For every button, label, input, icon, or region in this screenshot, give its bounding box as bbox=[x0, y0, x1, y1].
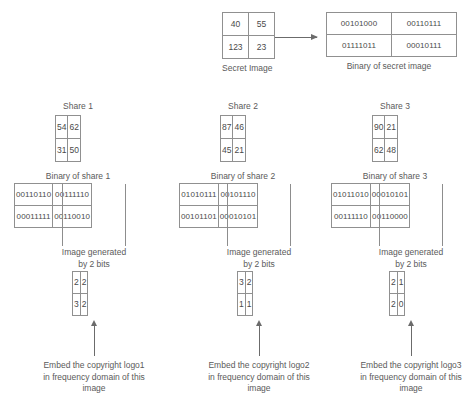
share-3-generated-caption-line2: by 2 bits bbox=[356, 259, 464, 271]
share-2-embed-caption: Embed the copyright logo2 in frequency d… bbox=[204, 360, 314, 395]
share-3-matrix: 90 21 62 48 bbox=[372, 115, 398, 162]
share-1-binary-caption: Binary of share 1 bbox=[23, 171, 133, 182]
table-row: 00101000 00110111 bbox=[327, 13, 457, 35]
table-row: 90 21 bbox=[373, 116, 398, 139]
secret-binary-cell-1-1: 00010111 bbox=[392, 35, 457, 57]
share-1-binary-matrix: 00110110 00111110 00011111 00110010 bbox=[14, 183, 92, 228]
share-3-cell-1-0: 62 bbox=[373, 139, 385, 162]
table-row: 01010111 00101110 bbox=[180, 184, 258, 206]
secret-image-caption: Secret Image bbox=[222, 63, 270, 74]
share-2-matrix: 87 46 45 21 bbox=[220, 115, 246, 162]
share-1-generated-cell-0-0: 2 bbox=[73, 272, 81, 294]
share-1-generated-caption: Image generated by 2 bits bbox=[39, 247, 149, 270]
share-1-embed-arrow-icon bbox=[94, 326, 95, 356]
table-row: 2 2 bbox=[73, 272, 88, 294]
share-1-matrix: 54 62 31 50 bbox=[55, 115, 81, 162]
share-3-binary-matrix: 01011010 00010101 00111110 00110000 bbox=[331, 183, 410, 228]
share-3-cell-0-1: 21 bbox=[385, 116, 397, 139]
secret-cell-1-1: 23 bbox=[249, 36, 275, 59]
table-row: 3 2 bbox=[238, 272, 253, 294]
table-row: 31 50 bbox=[56, 139, 81, 162]
share-1-binary-cell-1-0: 00011111 bbox=[15, 206, 53, 228]
share-2-generated-caption-line2: by 2 bits bbox=[204, 259, 314, 271]
share-3-binary-cell-1-1: 00110000 bbox=[370, 206, 409, 228]
share-1-binary-cell-0-0: 00110110 bbox=[15, 184, 53, 206]
share-2-cell-0-0: 87 bbox=[221, 116, 233, 139]
share-2-generated-cell-0-0: 3 bbox=[238, 272, 246, 294]
share-2-matrix-group: 87 46 45 21 bbox=[220, 115, 246, 162]
table-row: 45 21 bbox=[221, 139, 246, 162]
share-2-embed-arrow-icon bbox=[259, 326, 260, 356]
table-row: 00011111 00110010 bbox=[15, 206, 92, 228]
share-1-lsb-marker-left-icon bbox=[62, 184, 63, 246]
share-2-lsb-marker-left-icon bbox=[227, 184, 228, 246]
share-3-binary-matrix-group: 01011010 00010101 00111110 00110000 bbox=[331, 183, 410, 228]
secret-binary-cell-1-0: 01111011 bbox=[327, 35, 392, 57]
share-1-cell-1-0: 31 bbox=[56, 139, 68, 162]
share-2-cell-0-1: 46 bbox=[233, 116, 245, 139]
share-1-embed-caption: Embed the copyright logo1 in frequency d… bbox=[39, 360, 149, 395]
share-3-matrix-group: 90 21 62 48 bbox=[372, 115, 398, 162]
share-3-title: Share 3 bbox=[367, 101, 423, 112]
secret-image-group: 40 55 123 23 Secret Image bbox=[222, 12, 275, 74]
share-3-binary-cell-0-0: 01011010 bbox=[332, 184, 371, 206]
share-2-binary-cell-0-1: 00101110 bbox=[218, 184, 257, 206]
share-2-generated-matrix: 3 2 1 1 bbox=[237, 271, 253, 316]
share-3-cell-0-0: 90 bbox=[373, 116, 385, 139]
share-2-generated-matrix-group: 3 2 1 1 bbox=[237, 271, 253, 316]
table-row: 3 2 bbox=[73, 294, 88, 316]
share-3-lsb-marker-right-icon bbox=[442, 184, 443, 246]
share-3-binary-cell-1-0: 00111110 bbox=[332, 206, 371, 228]
share-2-generated-caption-line1: Image generated bbox=[204, 247, 314, 259]
share-1-binary-cell-1-1: 00110010 bbox=[53, 206, 92, 228]
share-3-embed-caption: Embed the copyright logo3 in frequency d… bbox=[356, 360, 464, 395]
share-2-binary-caption: Binary of share 2 bbox=[188, 171, 298, 182]
share-3-generated-cell-0-1: 1 bbox=[397, 272, 405, 294]
share-2-cell-1-1: 21 bbox=[233, 139, 245, 162]
share-3-generated-cell-1-0: 2 bbox=[390, 294, 398, 316]
secret-cell-0-1: 55 bbox=[249, 13, 275, 36]
share-3-generated-matrix-group: 2 1 2 0 bbox=[389, 271, 405, 316]
share-1-generated-matrix: 2 2 3 2 bbox=[72, 271, 88, 316]
table-row: 2 1 bbox=[390, 272, 405, 294]
share-2-generated-cell-1-1: 1 bbox=[245, 294, 253, 316]
share-2-generated-cell-1-0: 1 bbox=[238, 294, 246, 316]
share-1-generated-cell-1-1: 2 bbox=[80, 294, 88, 316]
table-row: 00101101 00010101 bbox=[180, 206, 258, 228]
secret-cell-0-0: 40 bbox=[223, 13, 249, 36]
share-2-lsb-marker-right-icon bbox=[290, 184, 291, 246]
secret-cell-1-0: 123 bbox=[223, 36, 249, 59]
share-1-generated-matrix-group: 2 2 3 2 bbox=[72, 271, 88, 316]
secret-binary-group: 00101000 00110111 01111011 00010111 Bina… bbox=[326, 12, 457, 72]
share-1-generated-cell-0-1: 2 bbox=[80, 272, 88, 294]
table-row: 87 46 bbox=[221, 116, 246, 139]
share-2-binary-cell-1-1: 00010101 bbox=[218, 206, 257, 228]
share-2-cell-1-0: 45 bbox=[221, 139, 233, 162]
secret-binary-caption: Binary of secret image bbox=[326, 61, 452, 72]
share-3-generated-matrix: 2 1 2 0 bbox=[389, 271, 405, 316]
share-1-lsb-marker-right-icon bbox=[125, 184, 126, 246]
share-1-generated-cell-1-0: 3 bbox=[73, 294, 81, 316]
share-1-cell-0-0: 54 bbox=[56, 116, 68, 139]
share-3-binary-cell-0-1: 00010101 bbox=[370, 184, 409, 206]
secret-binary-cell-0-0: 00101000 bbox=[327, 13, 392, 35]
secret-image-matrix: 40 55 123 23 bbox=[222, 12, 275, 59]
table-row: 1 1 bbox=[238, 294, 253, 316]
table-row: 62 48 bbox=[373, 139, 398, 162]
share-1-matrix-group: 54 62 31 50 bbox=[55, 115, 81, 162]
share-1-binary-cell-0-1: 00111110 bbox=[53, 184, 92, 206]
arrow-secret-to-binary-icon bbox=[275, 37, 317, 38]
share-2-binary-cell-1-0: 00101101 bbox=[180, 206, 219, 228]
share-1-generated-caption-line1: Image generated bbox=[39, 247, 149, 259]
share-2-generated-cell-0-1: 2 bbox=[245, 272, 253, 294]
share-3-lsb-marker-left-icon bbox=[379, 184, 380, 246]
share-3-generated-caption-line1: Image generated bbox=[356, 247, 464, 259]
table-row: 2 0 bbox=[390, 294, 405, 316]
share-1-cell-1-1: 50 bbox=[68, 139, 80, 162]
share-2-binary-matrix-group: 01010111 00101110 00101101 00010101 bbox=[179, 183, 258, 228]
table-row: 00111110 00110000 bbox=[332, 206, 410, 228]
share-3-cell-1-1: 48 bbox=[385, 139, 397, 162]
share-3-generated-caption: Image generated by 2 bits bbox=[356, 247, 464, 270]
secret-binary-cell-0-1: 00110111 bbox=[392, 13, 457, 35]
share-1-generated-caption-line2: by 2 bits bbox=[39, 259, 149, 271]
